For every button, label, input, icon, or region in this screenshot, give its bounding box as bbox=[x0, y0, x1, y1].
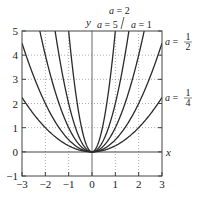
y-tick-label: −1 bbox=[6, 170, 18, 182]
parabola-family-chart: −3−2−10123−1012345 y x a = 2 a = 5 a = 1… bbox=[0, 0, 198, 197]
x-tick-label: 2 bbox=[136, 178, 142, 190]
x-tick-label: 3 bbox=[159, 178, 165, 190]
label-a-half: a = 1 2 bbox=[165, 31, 192, 52]
x-tick-label: −1 bbox=[63, 178, 75, 190]
label-a-quarter: a = 1 4 bbox=[165, 87, 192, 108]
y-tick-label: 5 bbox=[13, 25, 19, 37]
x-tick-label: −2 bbox=[39, 178, 51, 190]
label-a-5: a = 5 bbox=[97, 19, 118, 30]
y-tick-label: 2 bbox=[13, 98, 19, 110]
y-tick-label: 3 bbox=[13, 73, 19, 85]
label-a-2: a = 2 bbox=[109, 5, 130, 16]
x-tick-label: 0 bbox=[89, 178, 95, 190]
x-axis-label: x bbox=[165, 146, 171, 158]
y-tick-label: 4 bbox=[13, 49, 19, 61]
y-tick-label: 0 bbox=[13, 146, 19, 158]
x-tick-label: 1 bbox=[113, 178, 119, 190]
svg-text:2: 2 bbox=[186, 41, 191, 52]
y-axis-label: y bbox=[85, 16, 91, 28]
y-tick-label: 1 bbox=[13, 122, 19, 134]
label-a-2-leader bbox=[121, 17, 124, 29]
tick-labels: −3−2−10123−1012345 bbox=[6, 25, 165, 190]
svg-text:a =: a = bbox=[165, 92, 179, 103]
svg-text:4: 4 bbox=[186, 97, 191, 108]
svg-text:a =: a = bbox=[165, 36, 179, 47]
label-a-1: a = 1 bbox=[131, 19, 152, 30]
